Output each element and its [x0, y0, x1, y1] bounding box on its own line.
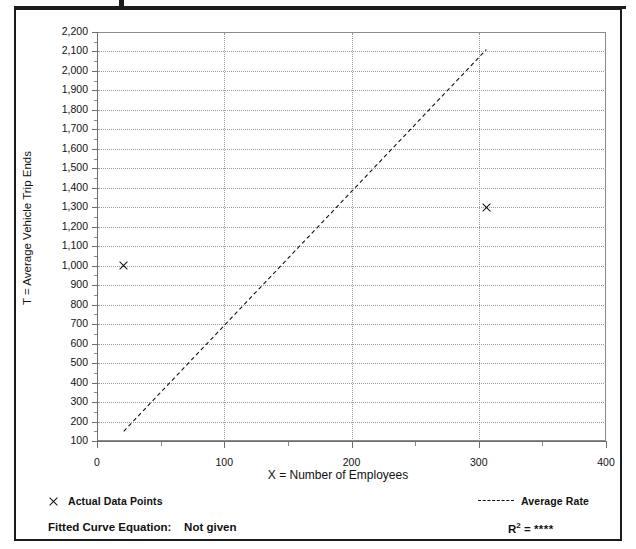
y-axis-minor-tick	[94, 178, 97, 179]
x-axis-tick-label: 300	[470, 456, 488, 468]
y-axis-minor-tick	[94, 431, 97, 432]
y-axis-tick	[92, 71, 97, 72]
y-axis-tick-label: 1,500	[42, 162, 88, 173]
legend-actual-points-marker-icon	[48, 496, 59, 507]
data-point-marker	[481, 202, 492, 213]
y-axis-tick	[92, 51, 97, 52]
y-axis-tick	[92, 207, 97, 208]
y-axis-minor-tick	[94, 314, 97, 315]
y-axis-tick-label: 1,800	[42, 104, 88, 115]
r-squared-stars: ****	[534, 523, 554, 535]
y-axis-minor-tick	[94, 198, 97, 199]
x-axis-tick-label: 200	[343, 456, 361, 468]
y-axis-tick-label: 700	[42, 318, 88, 329]
y-axis-tick-label: 2,000	[42, 65, 88, 76]
y-axis-tick-label: 1,600	[42, 143, 88, 154]
r-squared-equals: =	[521, 523, 534, 535]
data-point-marker	[118, 260, 129, 271]
x-axis-minor-tick	[542, 442, 543, 446]
y-axis-tick-label: 1,900	[42, 84, 88, 95]
legend-average-rate-label: Average Rate	[521, 495, 589, 507]
x-axis-tick-label: 400	[597, 456, 615, 468]
y-axis-tick	[92, 129, 97, 130]
x-axis-tick	[352, 442, 353, 448]
y-axis-minor-tick	[94, 256, 97, 257]
y-axis-tick	[92, 149, 97, 150]
y-axis-tick	[92, 383, 97, 384]
x-axis-tick	[224, 442, 225, 448]
x-axis-tick-label: 100	[215, 456, 233, 468]
fitted-curve-equation: Fitted Curve Equation: Not given	[48, 521, 237, 533]
x-axis-tick	[606, 442, 607, 448]
cropped-title-fragment	[119, 0, 124, 7]
y-axis-tick	[92, 285, 97, 286]
y-axis-tick-label: 1,300	[42, 201, 88, 212]
x-axis-tick	[479, 442, 480, 448]
y-axis-tick	[92, 90, 97, 91]
y-axis-tick	[92, 402, 97, 403]
y-axis-minor-tick	[94, 295, 97, 296]
y-axis-minor-tick	[94, 42, 97, 43]
x-axis-minor-tick	[288, 442, 289, 446]
y-axis-tick	[92, 305, 97, 306]
y-axis-minor-tick	[94, 334, 97, 335]
y-axis-tick-label: 800	[42, 299, 88, 310]
x-gridline	[479, 33, 480, 441]
fitted-curve-equation-value: Not given	[184, 521, 236, 533]
y-axis-tick-label: 500	[42, 357, 88, 368]
y-axis-tick-label: 1,000	[42, 260, 88, 271]
y-axis-tick-label: 400	[42, 377, 88, 388]
y-axis-tick	[92, 344, 97, 345]
y-axis-minor-tick	[94, 353, 97, 354]
y-axis-tick	[92, 168, 97, 169]
y-axis-tick	[92, 110, 97, 111]
y-axis-minor-tick	[94, 217, 97, 218]
y-axis-line	[97, 32, 98, 442]
y-axis-tick	[92, 422, 97, 423]
x-axis-minor-tick	[161, 442, 162, 446]
y-axis-minor-tick	[94, 100, 97, 101]
y-axis-minor-tick	[94, 81, 97, 82]
y-axis-tick	[92, 246, 97, 247]
y-axis-tick	[92, 188, 97, 189]
fitted-curve-equation-label: Fitted Curve Equation:	[48, 521, 171, 533]
y-axis-tick-label: 100	[42, 435, 88, 446]
y-axis-tick-label: 600	[42, 338, 88, 349]
y-axis-minor-tick	[94, 392, 97, 393]
y-axis-tick-label: 300	[42, 396, 88, 407]
legend-actual-points-label: Actual Data Points	[68, 495, 163, 507]
y-axis-minor-tick	[94, 139, 97, 140]
y-axis-minor-tick	[94, 412, 97, 413]
y-axis-tick	[92, 32, 97, 33]
y-axis-tick-label: 1,700	[42, 123, 88, 134]
y-axis-tick	[92, 227, 97, 228]
y-axis-tick-label: 1,400	[42, 182, 88, 193]
legend-average-rate-dash-icon	[478, 500, 514, 501]
y-axis-tick-label: 2,200	[42, 26, 88, 37]
y-axis-minor-tick	[94, 275, 97, 276]
y-axis-minor-tick	[94, 120, 97, 121]
y-axis-minor-tick	[94, 373, 97, 374]
y-axis-tick-label: 900	[42, 279, 88, 290]
chart-figure: 1002003004005006007008009001,0001,1001,2…	[0, 0, 636, 549]
x-gridline	[352, 33, 353, 441]
y-axis-tick-label: 2,100	[42, 45, 88, 56]
y-axis-minor-tick	[94, 237, 97, 238]
x-axis-tick	[97, 442, 98, 448]
r-squared-value: R2 = ****	[508, 521, 554, 535]
x-axis-title: X = Number of Employees	[168, 468, 508, 482]
y-axis-tick-label: 200	[42, 416, 88, 427]
y-axis-title: T = Average Vehicle Trip Ends	[21, 128, 33, 328]
x-gridline	[224, 33, 225, 441]
y-axis-tick-label: 1,100	[42, 240, 88, 251]
y-axis-tick	[92, 363, 97, 364]
y-axis-minor-tick	[94, 159, 97, 160]
x-axis-tick-label: 0	[94, 456, 100, 468]
x-axis-minor-tick	[415, 442, 416, 446]
y-axis-tick	[92, 266, 97, 267]
y-axis-tick-label: 1,200	[42, 221, 88, 232]
y-axis-minor-tick	[94, 61, 97, 62]
y-axis-tick	[92, 324, 97, 325]
